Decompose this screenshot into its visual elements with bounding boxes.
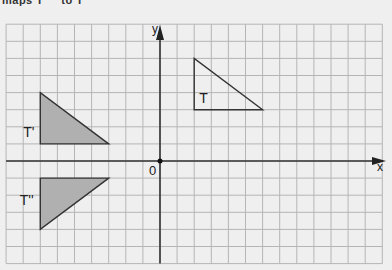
origin-label: 0 [149, 163, 156, 178]
coordinate-grid-diagram: TT'T'' x y 0 [0, 0, 392, 270]
triangle-label: T [199, 90, 208, 106]
x-axis-label: x [377, 160, 383, 174]
triangle-label: T'' [20, 192, 34, 208]
y-axis-label: y [152, 22, 158, 36]
triangle-label: T' [23, 124, 34, 140]
origin-dot [158, 159, 163, 164]
